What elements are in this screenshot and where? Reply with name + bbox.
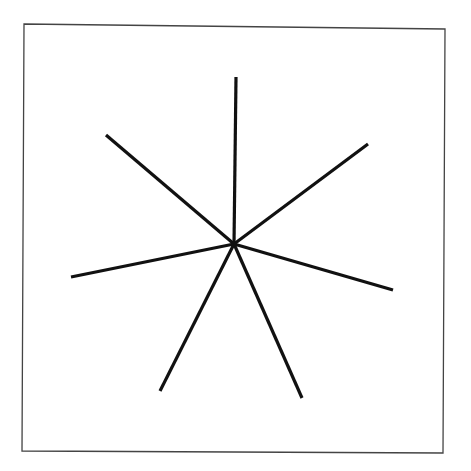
ray-lower-right	[234, 244, 302, 398]
ray-lower-left	[160, 244, 234, 391]
ray-left	[71, 244, 234, 277]
ray-top	[234, 77, 236, 244]
star-rays	[71, 77, 393, 398]
ray-upper-left	[106, 135, 234, 244]
diagram-canvas	[0, 0, 471, 471]
ray-right	[234, 244, 393, 290]
star-center-hub	[232, 242, 237, 247]
star-diagram	[0, 0, 471, 471]
ray-upper-right	[234, 144, 368, 244]
